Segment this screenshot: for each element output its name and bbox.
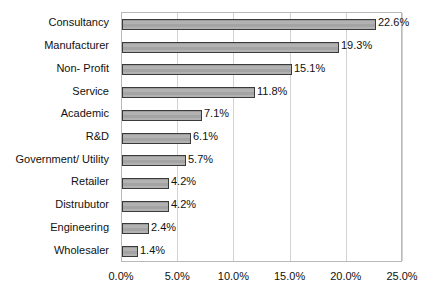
x-axis-tick-label: 5.0% (165, 271, 190, 282)
category-label: Retailer (0, 176, 116, 187)
gridline (402, 13, 403, 261)
value-label: 1.4% (140, 245, 165, 256)
value-label: 15.1% (294, 63, 325, 74)
bar (122, 178, 169, 189)
category-label: Consultancy (0, 17, 116, 28)
category-label: Academic (0, 108, 116, 119)
value-label: 11.8% (257, 86, 287, 97)
bar (122, 201, 169, 212)
bar (122, 19, 376, 30)
x-axis-tick-label: 0.0% (108, 271, 133, 282)
bar (122, 42, 339, 53)
bar (122, 155, 186, 166)
value-label: 19.3% (341, 40, 372, 51)
x-axis-tick-label: 20.0% (330, 271, 361, 282)
value-label: 2.4% (151, 222, 176, 233)
bar (122, 110, 202, 121)
x-axis-tick-label: 25.0% (386, 271, 417, 282)
category-label: R&D (0, 131, 116, 142)
category-label: Wholesaler (0, 245, 116, 256)
value-label: 4.2% (171, 176, 196, 187)
value-label: 6.1% (193, 131, 218, 142)
value-label: 5.7% (188, 154, 213, 165)
value-label: 22.6% (378, 17, 409, 28)
category-label: Government/ Utility (0, 154, 116, 165)
bar-chart: Consultancy22.6%Manufacturer19.3%Non- Pr… (0, 0, 431, 299)
bar (122, 87, 255, 98)
x-axis-tick-label: 10.0% (218, 271, 249, 282)
bar (122, 246, 138, 257)
x-axis-tick-label: 15.0% (274, 271, 305, 282)
value-label: 7.1% (204, 108, 229, 119)
value-label: 4.2% (171, 199, 196, 210)
category-label: Engineering (0, 222, 116, 233)
category-label: Distrubutor (0, 199, 116, 210)
bar (122, 223, 149, 234)
category-label: Manufacturer (0, 40, 116, 51)
bar (122, 64, 292, 75)
category-label: Non- Profit (0, 63, 116, 74)
bar (122, 133, 191, 144)
category-label: Service (0, 86, 116, 97)
